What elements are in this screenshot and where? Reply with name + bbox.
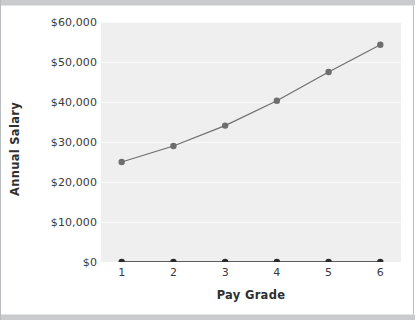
x-axis-tick-labels: 123456	[101, 266, 401, 282]
data-point-marker	[222, 259, 228, 262]
figure-bottom-edge-inner-line	[1, 314, 415, 315]
x-tick-label: 5	[309, 266, 349, 279]
data-point-marker	[170, 143, 176, 149]
chart-lines-and-markers	[101, 22, 401, 262]
x-tick-label: 6	[360, 266, 400, 279]
plot-area	[101, 22, 401, 262]
data-point-marker	[222, 122, 228, 128]
data-point-marker	[274, 259, 280, 262]
x-tick-label: 3	[205, 266, 245, 279]
x-tick-label: 2	[153, 266, 193, 279]
x-tick-label: 1	[102, 266, 142, 279]
y-tick-label: $60,000	[5, 16, 97, 29]
data-point-marker	[274, 98, 280, 104]
y-tick-label: $0	[5, 256, 97, 269]
x-axis-title: Pay Grade	[101, 288, 401, 302]
series-line	[122, 45, 381, 162]
figure-top-edge-inner-line	[1, 5, 415, 6]
y-axis-title: Annual Salary	[8, 49, 22, 249]
data-point-marker	[118, 259, 124, 262]
figure-bottom-edge-strip	[1, 315, 415, 320]
data-point-marker	[377, 259, 383, 262]
data-point-marker	[118, 159, 124, 165]
data-point-marker	[325, 259, 331, 262]
data-point-marker	[170, 259, 176, 262]
data-point-marker	[325, 69, 331, 75]
x-tick-label: 4	[257, 266, 297, 279]
data-point-marker	[377, 42, 383, 48]
